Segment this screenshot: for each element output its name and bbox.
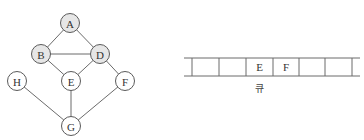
node-F: F xyxy=(116,72,135,91)
node-label: B xyxy=(37,49,44,61)
node-H: H xyxy=(8,72,27,91)
node-label: A xyxy=(66,18,74,30)
node-label: D xyxy=(96,49,104,61)
queue-cell: F xyxy=(283,61,289,73)
node-label: G xyxy=(67,121,75,133)
edge-F-G xyxy=(71,81,125,126)
node-label: F xyxy=(122,76,128,88)
queue-caption: 큐 xyxy=(255,83,264,94)
node-label: H xyxy=(13,76,21,88)
diagram-canvas: ABDHEFG EF 큐 xyxy=(0,0,364,140)
queue-cell: E xyxy=(256,61,263,73)
node-label: E xyxy=(68,76,75,88)
node-E: E xyxy=(62,72,81,91)
node-A: A xyxy=(61,14,80,33)
queue: EF 큐 xyxy=(184,58,360,94)
node-B: B xyxy=(32,45,51,64)
node-G: G xyxy=(62,117,81,136)
edge-H-G xyxy=(17,81,71,126)
graph-nodes: ABDHEFG xyxy=(8,14,135,136)
node-D: D xyxy=(91,45,110,64)
